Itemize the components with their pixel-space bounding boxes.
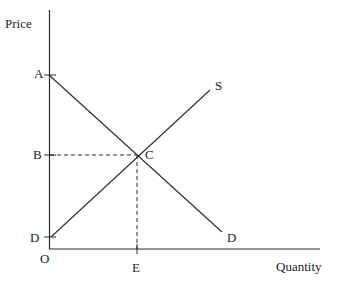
x-axis-label: Quantity [276,260,322,273]
demand-curve [49,75,222,232]
point-a-label: A [34,67,43,80]
y-axis-label: Price [5,17,32,30]
origin-label: O [40,252,49,265]
point-e-label: E [132,261,140,274]
point-c-label: C [145,148,154,161]
point-d-axis-label: D [30,231,39,244]
supply-demand-diagram: Price Quantity O A B C D E S D [0,0,345,285]
demand-curve-label: D [227,231,236,244]
supply-curve [51,90,210,237]
point-b-label: B [33,148,42,161]
supply-curve-label: S [215,79,222,92]
diagram-canvas [0,0,345,285]
